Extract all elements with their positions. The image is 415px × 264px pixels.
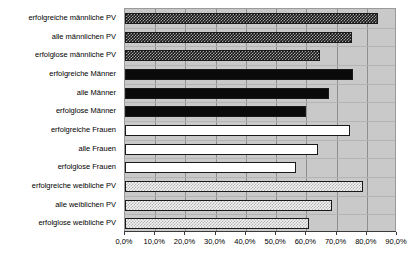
x-tick-mark bbox=[275, 232, 276, 235]
category-label-slot: alle Frauen bbox=[0, 139, 120, 158]
x-tick-mark bbox=[245, 232, 246, 235]
bar bbox=[125, 13, 378, 24]
band-separator bbox=[125, 65, 395, 66]
bar bbox=[125, 106, 306, 117]
category-label: erfolgreiche Frauen bbox=[51, 125, 116, 134]
category-label: alle Männer bbox=[77, 88, 116, 97]
x-tick-label: 80,0% bbox=[355, 237, 376, 246]
bar bbox=[125, 69, 353, 80]
category-label-slot: erfolgreiche Männer bbox=[0, 64, 120, 83]
gridline bbox=[367, 9, 368, 231]
x-tick-label: 90,0% bbox=[385, 237, 406, 246]
bar bbox=[125, 88, 329, 99]
category-label: erfolglose weibliche PV bbox=[38, 218, 116, 227]
category-label: erfolgreiche weibliche PV bbox=[32, 181, 116, 190]
category-label-slot: erfolglose Frauen bbox=[0, 157, 120, 176]
x-tick-mark bbox=[366, 232, 367, 235]
x-axis-line bbox=[124, 231, 396, 232]
bar bbox=[125, 144, 318, 155]
bar-chart: erfolgreiche männliche PValle männlichen… bbox=[0, 0, 415, 264]
category-label-slot: erfolgreiche weibliche PV bbox=[0, 176, 120, 195]
x-tick-mark bbox=[396, 232, 397, 235]
x-tick-mark bbox=[305, 232, 306, 235]
category-label: erfolglose Frauen bbox=[58, 162, 116, 171]
category-label: alle männlichen PV bbox=[52, 32, 116, 41]
category-label-slot: erfolgreiche Frauen bbox=[0, 120, 120, 139]
category-label: alle weiblichen PV bbox=[55, 200, 116, 209]
x-tick-mark bbox=[124, 232, 125, 235]
category-label-slot: alle weiblichen PV bbox=[0, 195, 120, 214]
band-separator bbox=[125, 121, 395, 122]
x-tick-label: 0,0% bbox=[115, 237, 132, 246]
x-tick-mark bbox=[184, 232, 185, 235]
bar bbox=[125, 50, 320, 61]
category-label-slot: alle Männer bbox=[0, 83, 120, 102]
category-label: erfolglose männliche PV bbox=[35, 50, 116, 59]
category-label-slot: erfolglose Männer bbox=[0, 101, 120, 120]
band-separator bbox=[125, 214, 395, 215]
bar bbox=[125, 162, 296, 173]
category-label: alle Frauen bbox=[78, 144, 116, 153]
category-label: erfolgreiche Männer bbox=[49, 69, 116, 78]
x-tick-label: 10,0% bbox=[144, 237, 165, 246]
band-separator bbox=[125, 102, 395, 103]
category-label-slot: erfolglose männliche PV bbox=[0, 45, 120, 64]
plot-area bbox=[124, 8, 396, 232]
bar bbox=[125, 181, 363, 192]
category-label: erfolgreiche männliche PV bbox=[28, 13, 116, 22]
x-tick-label: 40,0% bbox=[234, 237, 255, 246]
x-tick-label: 70,0% bbox=[325, 237, 346, 246]
x-tick-label: 30,0% bbox=[204, 237, 225, 246]
band-separator bbox=[125, 140, 395, 141]
category-label-slot: erfolgreiche männliche PV bbox=[0, 8, 120, 27]
bar bbox=[125, 32, 352, 43]
bar bbox=[125, 218, 309, 229]
band-separator bbox=[125, 158, 395, 159]
category-label-slot: alle männlichen PV bbox=[0, 27, 120, 46]
x-tick-mark bbox=[154, 232, 155, 235]
x-tick-mark bbox=[336, 232, 337, 235]
x-tick-label: 20,0% bbox=[174, 237, 195, 246]
x-tick-mark bbox=[215, 232, 216, 235]
category-label: erfolglose Männer bbox=[56, 106, 116, 115]
category-axis-labels: erfolgreiche männliche PValle männlichen… bbox=[0, 8, 120, 232]
x-tick-label: 60,0% bbox=[295, 237, 316, 246]
x-tick-label: 50,0% bbox=[264, 237, 285, 246]
band-separator bbox=[125, 46, 395, 47]
band-separator bbox=[125, 28, 395, 29]
band-separator bbox=[125, 84, 395, 85]
bar bbox=[125, 200, 332, 211]
band-separator bbox=[125, 177, 395, 178]
bar bbox=[125, 125, 350, 136]
band-separator bbox=[125, 196, 395, 197]
category-label-slot: erfolglose weibliche PV bbox=[0, 213, 120, 232]
